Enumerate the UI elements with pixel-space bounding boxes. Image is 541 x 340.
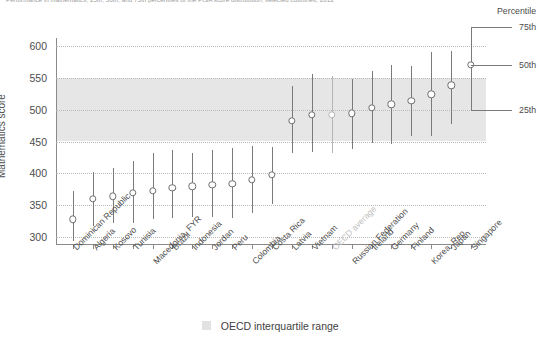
- chart-figure: Performance in mathematics, 25th, 50th, …: [0, 0, 541, 340]
- median-marker: [169, 184, 176, 191]
- percentile-label-75th: 75th: [519, 22, 536, 32]
- y-tick-label-500: 500: [29, 104, 47, 116]
- legend-label-oecd-range: OECD interquartile range: [221, 320, 339, 332]
- median-marker: [248, 176, 255, 183]
- gridline-450: [56, 142, 486, 143]
- percentile-callout-title: Percentile: [497, 6, 536, 16]
- chart-caption-text: Performance in mathematics, 25th, 50th, …: [6, 0, 334, 3]
- plot-area: [56, 38, 486, 245]
- median-marker: [189, 183, 196, 190]
- y-tick-label-600: 600: [29, 40, 47, 52]
- median-marker: [268, 171, 275, 178]
- y-tick-label-450: 450: [29, 136, 47, 148]
- median-marker: [69, 216, 76, 223]
- gridline-550: [56, 78, 486, 79]
- median-marker: [89, 195, 96, 202]
- y-tick-label-400: 400: [29, 167, 47, 179]
- y-axis-labels: Mathematics score 600550500450400350300: [0, 38, 54, 245]
- median-marker: [228, 180, 235, 187]
- percentile-label-25th: 25th: [519, 105, 536, 115]
- percentile-leader-line: [471, 27, 512, 28]
- gridline-600: [56, 46, 486, 47]
- y-tick-label-550: 550: [29, 72, 47, 84]
- y-axis-title: Mathematics score: [0, 94, 7, 178]
- legend-swatch-oecd-range: [202, 321, 211, 330]
- median-marker: [209, 181, 216, 188]
- y-tick-label-300: 300: [29, 231, 47, 243]
- median-marker: [149, 187, 156, 194]
- chart-caption: Performance in mathematics, 25th, 50th, …: [0, 0, 541, 7]
- gridline-500: [56, 110, 486, 111]
- percentile-label-50th: 50th: [519, 60, 536, 70]
- percentile-leader-line: [471, 110, 512, 111]
- y-tick-label-350: 350: [29, 199, 47, 211]
- percentile-leader-line: [471, 65, 512, 66]
- chart-legend: OECD interquartile range: [0, 316, 541, 334]
